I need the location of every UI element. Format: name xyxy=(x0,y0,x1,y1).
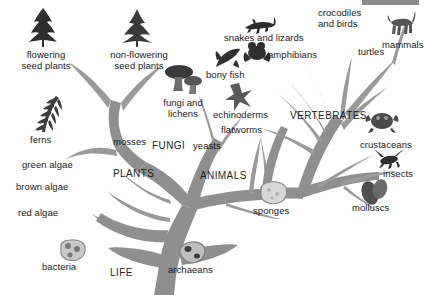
label-brown-algae: brown algae xyxy=(16,182,68,193)
label-crustaceans: crustaceans xyxy=(360,140,412,151)
scan-artifact-bar xyxy=(362,0,419,5)
group-label-vertebrates: VERTEBRATES xyxy=(290,110,367,121)
fish-icon xyxy=(214,46,242,70)
label-non-flowering-seed-plants: non-flowering seed plants xyxy=(96,50,182,71)
label-red-algae: red algae xyxy=(18,208,58,219)
group-label-plants: PLANTS xyxy=(113,168,154,179)
label-fungi-and-lichens: fungi and lichens xyxy=(150,98,216,119)
label-bacteria: bacteria xyxy=(42,262,76,273)
label-ferns: ferns xyxy=(30,135,51,146)
label-mammals: mammals xyxy=(382,40,424,51)
label-bony-fish: bony fish xyxy=(206,70,244,81)
twig-ferns xyxy=(65,148,117,160)
tree-of-life-diagram: flowering seed plants non-flowering seed… xyxy=(0,0,425,295)
group-label-fungi: FUNGI xyxy=(152,140,185,151)
label-turtles: turtles xyxy=(358,47,384,58)
insect-icon xyxy=(373,148,405,170)
label-flatworms: flatworms xyxy=(221,125,262,136)
twig-brown-algae xyxy=(107,191,170,222)
label-crocodiles-and-birds: crocodiles and birds xyxy=(318,8,388,29)
crustacean-icon xyxy=(365,108,399,134)
twig-bony-fish xyxy=(260,128,314,155)
label-snakes-and-lizards: snakes and lizards xyxy=(224,33,304,44)
root-left xyxy=(108,247,166,268)
fern-icon xyxy=(26,94,70,136)
starfish-icon xyxy=(224,82,254,112)
mammal-icon xyxy=(385,10,419,40)
archaean-icon xyxy=(176,240,208,266)
label-echinoderms: echinoderms xyxy=(213,110,268,121)
label-mosses: mosses xyxy=(113,137,146,148)
label-green-algae: green algae xyxy=(22,160,73,171)
label-molluscs: molluscs xyxy=(352,203,389,214)
label-insects: insects xyxy=(383,169,413,180)
conifer-tree-icon xyxy=(22,6,64,48)
sponge-icon xyxy=(255,180,289,206)
label-archaeans: archaeans xyxy=(168,265,213,276)
pine-tree-icon xyxy=(116,8,158,48)
label-yeasts: yeasts xyxy=(193,141,221,152)
root-label-life: LIFE xyxy=(110,267,133,278)
label-amphibians: amphibians xyxy=(268,50,317,61)
label-sponges: sponges xyxy=(253,206,289,217)
group-label-animals: ANIMALS xyxy=(200,170,247,181)
label-flowering-seed-plants: flowering seed plants xyxy=(6,50,86,71)
